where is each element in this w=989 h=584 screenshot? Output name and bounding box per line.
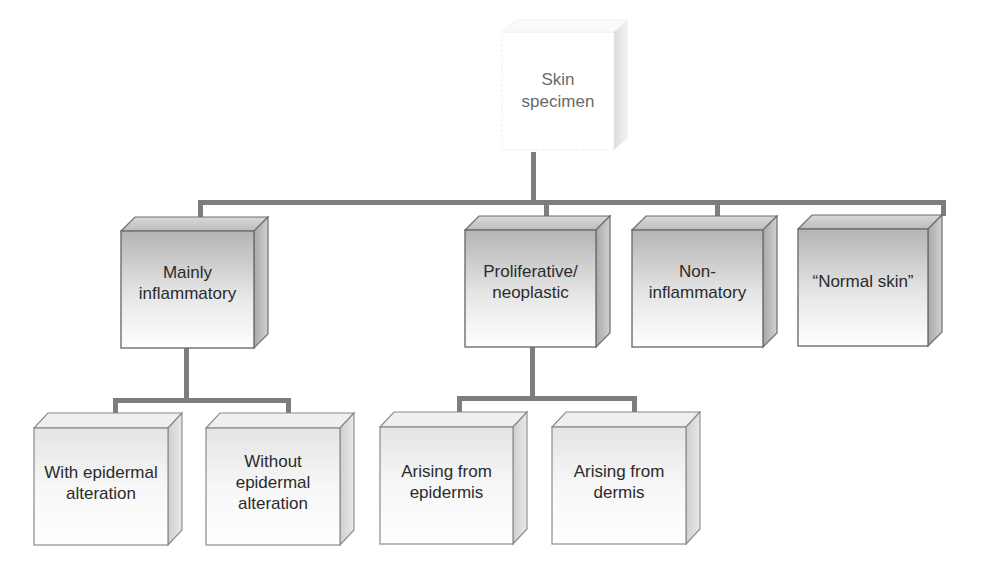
root-box-skin-specimen: Skin specimen (500, 18, 630, 153)
label-line-1: Proliferative/ (483, 261, 577, 282)
label-proliferative-neoplastic: Proliferative/ neoplastic (465, 230, 596, 344)
root-label: Skin specimen (502, 32, 614, 150)
label-line-1: Arising from (574, 461, 665, 482)
label-line-2: neoplastic (492, 282, 569, 303)
label-non-inflammatory: Non- inflammatory (632, 230, 763, 344)
label-without-epidermal-alteration: Without epidermal alteration (206, 428, 340, 545)
label-line-2: inflammatory (139, 283, 236, 304)
box-non-inflammatory: Non- inflammatory (631, 215, 781, 349)
label-line-3: alteration (238, 493, 308, 514)
box-arising-from-dermis: Arising from dermis (551, 411, 703, 547)
label-line-2: alteration (66, 483, 136, 504)
label-line-1: “Normal skin” (812, 271, 913, 292)
connector-mainly-down (184, 348, 189, 402)
root-label-line-1: Skin (541, 69, 574, 91)
label-line-2: epidermal (236, 472, 311, 493)
connector-proliferative-down (530, 347, 535, 401)
label-line-2: dermis (593, 482, 644, 503)
box-proliferative-neoplastic: Proliferative/ neoplastic (464, 215, 614, 349)
label-normal-skin: “Normal skin” (798, 229, 928, 345)
label-line-1: Without (244, 451, 302, 472)
connector-level2-left-bar (113, 398, 291, 403)
box-with-epidermal-alteration: With epidermal alteration (33, 412, 185, 548)
label-arising-from-epidermis: Arising from epidermis (380, 427, 513, 544)
label-line-2: inflammatory (649, 282, 746, 303)
label-arising-from-dermis: Arising from dermis (552, 427, 686, 544)
box-mainly-inflammatory: Mainly inflammatory (120, 216, 270, 350)
label-with-epidermal-alteration: With epidermal alteration (34, 428, 168, 545)
box-without-epidermal-alteration: Without epidermal alteration (205, 412, 357, 548)
label-mainly-inflammatory: Mainly inflammatory (121, 231, 254, 345)
root-label-line-2: specimen (522, 91, 595, 113)
label-line-1: With epidermal (44, 462, 157, 483)
label-line-2: epidermis (410, 482, 484, 503)
label-line-1: Mainly (163, 262, 212, 283)
label-line-1: Arising from (401, 461, 492, 482)
connector-level2-right-bar (457, 396, 637, 401)
box-normal-skin: “Normal skin” (797, 214, 947, 348)
label-line-1: Non- (679, 261, 716, 282)
connector-level1-bar (198, 200, 946, 205)
box-arising-from-epidermis: Arising from epidermis (379, 411, 531, 547)
connector-root-down (531, 152, 536, 204)
